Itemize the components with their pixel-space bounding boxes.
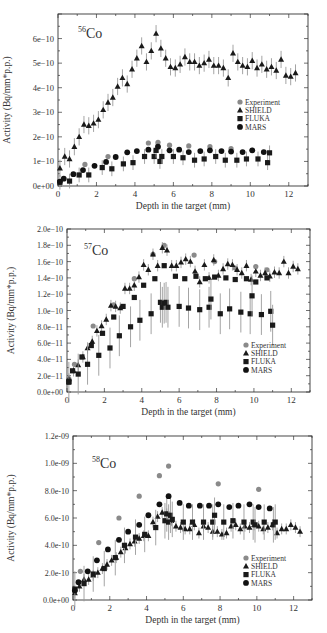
- fluka-point: [149, 311, 154, 316]
- mars-point: [105, 547, 111, 553]
- x-tick-label: 10: [249, 395, 259, 405]
- fluka-point: [273, 520, 278, 525]
- fluka-point: [208, 296, 213, 301]
- fluka-point: [223, 158, 228, 163]
- shield-point: [201, 262, 207, 267]
- shield-point: [105, 99, 111, 104]
- experiment-point: [166, 463, 171, 468]
- mars-point: [132, 295, 137, 300]
- y-tick-label: 1e−10: [33, 156, 54, 166]
- x-tick-label: 12: [289, 603, 298, 613]
- fluka-point: [171, 154, 176, 159]
- mars-point: [134, 148, 140, 154]
- mars-point: [206, 503, 212, 509]
- shield-point: [110, 94, 116, 99]
- fluka-point: [121, 161, 126, 166]
- shield-point: [196, 530, 202, 535]
- x-tick-label: 2: [108, 603, 113, 613]
- x-tick-label: 4: [140, 395, 145, 405]
- fluka-point: [170, 517, 175, 522]
- experiment-point: [146, 140, 151, 145]
- shield-point: [155, 262, 161, 267]
- x-tick-label: 10: [246, 189, 256, 199]
- shield-point: [131, 282, 137, 287]
- mars-point: [145, 512, 151, 518]
- mars-point: [85, 568, 91, 574]
- shield-point: [283, 72, 289, 77]
- y-tick-label: 3e−10: [33, 107, 54, 117]
- y-tick-label: 4e−10: [33, 83, 54, 93]
- fluka-point: [213, 154, 218, 159]
- mars-point: [141, 283, 146, 288]
- x-tick-label: 6: [171, 189, 176, 199]
- y-tick-label: 2.0e−10: [37, 225, 63, 234]
- mars-point: [120, 304, 125, 309]
- fluka-point: [102, 566, 107, 571]
- shield-point: [225, 261, 231, 266]
- chart-58co: 0246810120.0e+002.0e-104.0e-106.0e-108.0…: [0, 422, 327, 633]
- shield-point: [177, 61, 183, 66]
- fluka-point: [192, 158, 197, 163]
- shield-point: [220, 266, 226, 271]
- mars-point: [228, 149, 234, 155]
- mars-point: [219, 148, 225, 154]
- mars-point: [61, 176, 67, 182]
- shield-point: [286, 270, 292, 275]
- shield-point: [192, 268, 198, 273]
- isotope-title: 57Co: [84, 242, 108, 258]
- mars-point: [100, 331, 105, 336]
- fluka-point: [133, 535, 138, 540]
- fluka-point: [130, 160, 135, 165]
- shield-point: [229, 262, 235, 267]
- shield-point: [288, 73, 294, 78]
- fluka-point: [230, 518, 235, 523]
- shield-point: [141, 262, 147, 267]
- shield-point: [240, 62, 246, 67]
- shield-point: [260, 526, 266, 531]
- fluka-point: [96, 353, 101, 358]
- mars-point: [186, 149, 192, 155]
- legend-label-mars: MARS: [245, 123, 266, 132]
- mars-point: [145, 147, 151, 153]
- mars-point: [256, 504, 262, 510]
- shield-point: [124, 81, 130, 86]
- fluka-point: [234, 158, 239, 163]
- experiment-point: [157, 473, 162, 478]
- y-tick-label: 1.8e−10: [37, 241, 63, 250]
- x-axis-label: Depth in the target (mm): [145, 615, 239, 626]
- x-tick-label: 8: [218, 603, 223, 613]
- y-tick-label: 0.0e+00: [43, 596, 69, 605]
- shield-point: [150, 519, 156, 524]
- fluka-point: [221, 520, 226, 525]
- fluka-point: [265, 160, 270, 165]
- mars-point: [226, 504, 232, 510]
- mars-point: [136, 522, 142, 528]
- fluka-point: [241, 520, 246, 525]
- mars-point: [212, 274, 217, 279]
- mars-point: [162, 263, 167, 268]
- shield-point: [273, 67, 279, 72]
- shield-point: [206, 56, 212, 61]
- shield-point: [224, 530, 230, 535]
- mars-point: [70, 368, 75, 373]
- fluka-point: [67, 178, 72, 183]
- y-tick-label: 2.0e−11: [37, 372, 63, 381]
- fluka-point: [128, 324, 133, 329]
- shield-point: [172, 65, 178, 70]
- x-tick-label: 6: [181, 603, 186, 613]
- legend-shield-point: [243, 563, 249, 568]
- mars-point: [244, 276, 249, 281]
- x-tick-label: 12: [284, 189, 293, 199]
- fluka-point: [117, 333, 122, 338]
- fluka-point: [153, 525, 158, 530]
- shield-point: [249, 57, 255, 62]
- shield-point: [201, 60, 207, 65]
- mars-point: [249, 147, 255, 153]
- mars-point: [89, 343, 94, 348]
- fluka-point: [227, 306, 232, 311]
- shield-point: [293, 70, 299, 75]
- isotope-title: 58Co: [92, 455, 116, 471]
- shield-point: [183, 256, 189, 261]
- x-tick-label: 4: [133, 189, 138, 199]
- fluka-point: [262, 520, 267, 525]
